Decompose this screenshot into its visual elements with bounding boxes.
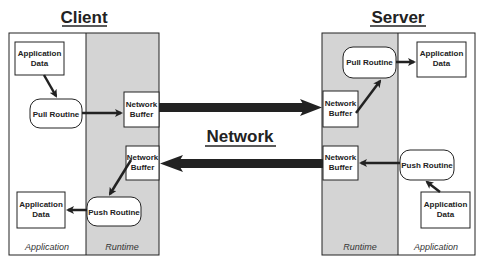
client-footer-application: Application xyxy=(24,242,69,252)
server-bottom-network-buffer: Network Buffer xyxy=(323,146,358,180)
svg-text:Buffer: Buffer xyxy=(131,163,155,172)
server-footer-runtime: Runtime xyxy=(343,242,377,252)
client-footer-runtime: Runtime xyxy=(105,242,139,252)
svg-text:Push Routine: Push Routine xyxy=(401,161,453,170)
server-push-routine: Push Routine xyxy=(400,150,454,180)
svg-text:Application: Application xyxy=(420,49,464,58)
svg-text:Application: Application xyxy=(19,200,63,209)
svg-text:Network: Network xyxy=(325,153,357,162)
svg-text:Buffer: Buffer xyxy=(130,110,154,119)
svg-text:Buffer: Buffer xyxy=(329,109,353,118)
svg-text:Data: Data xyxy=(437,210,455,219)
server-footer-application: Application xyxy=(413,242,458,252)
server-bottom-app-data: Application Data xyxy=(421,192,470,228)
svg-text:Network: Network xyxy=(325,99,357,108)
svg-text:Buffer: Buffer xyxy=(329,163,353,172)
client-server-diagram: Client Server Application Runtime Runtim… xyxy=(0,0,485,265)
client-bottom-network-buffer: Network Buffer xyxy=(126,146,159,180)
arrow-network-client-to-server xyxy=(159,99,322,116)
client-top-network-buffer: Network Buffer xyxy=(124,92,159,127)
client-pull-routine: Pull Routine xyxy=(30,99,82,128)
svg-text:Data: Data xyxy=(433,59,451,68)
server-top-app-data: Application Data xyxy=(417,42,466,77)
arrow-network-server-to-client xyxy=(160,155,323,172)
client-top-app-data: Application Data xyxy=(15,42,64,75)
client-push-routine: Push Routine xyxy=(87,197,141,226)
svg-text:Application: Application xyxy=(424,200,468,209)
client-title: Client xyxy=(60,8,108,27)
svg-text:Push Routine: Push Routine xyxy=(88,208,140,217)
server-title: Server xyxy=(372,8,425,27)
svg-text:Pull Routine: Pull Routine xyxy=(33,110,80,119)
svg-text:Data: Data xyxy=(32,210,50,219)
server-pull-routine: Pull Routine xyxy=(343,47,396,78)
client-bottom-app-data: Application Data xyxy=(17,192,65,228)
network-label: Network xyxy=(206,127,274,146)
server-top-network-buffer: Network Buffer xyxy=(323,91,358,127)
svg-text:Network: Network xyxy=(126,100,158,109)
svg-text:Application: Application xyxy=(18,49,62,58)
svg-text:Data: Data xyxy=(31,59,49,68)
svg-text:Pull Routine: Pull Routine xyxy=(346,58,393,67)
